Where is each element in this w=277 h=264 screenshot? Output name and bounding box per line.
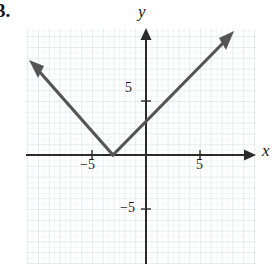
coordinate-plane-figure: y x −5 5 5 −5 [0, 0, 277, 264]
axis-label-y: y [138, 2, 146, 22]
tick-label-x-neg5: −5 [80, 157, 95, 173]
axis-label-x: x [262, 141, 270, 161]
tick-label-y-pos5: 5 [125, 80, 132, 96]
graph-page: 3. [0, 0, 277, 264]
tick-label-y-neg5: −5 [120, 200, 135, 216]
graph-svg [0, 0, 277, 264]
grid-background [26, 28, 256, 264]
tick-label-x-pos5: 5 [196, 157, 203, 173]
